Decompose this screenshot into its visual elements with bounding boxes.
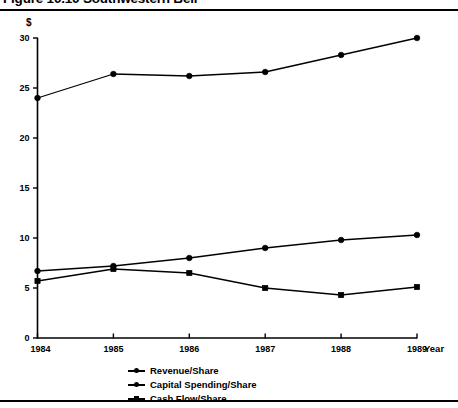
legend-item-cash-flow-share: Cash Flow/Share bbox=[128, 392, 388, 405]
y-axis-tick-label: 25 bbox=[19, 83, 29, 93]
legend-label-cash-flow-share: Cash Flow/Share bbox=[150, 393, 227, 404]
data-point-marker bbox=[414, 284, 419, 289]
data-point-marker bbox=[262, 245, 268, 251]
x-axis-tick-label: 1987 bbox=[255, 344, 275, 354]
legend-label-capital-spending-share: Capital Spending/Share bbox=[150, 379, 257, 390]
data-point-marker bbox=[339, 292, 344, 297]
y-axis-tick-label: 30 bbox=[19, 33, 29, 43]
legend-marker-circle-icon bbox=[128, 366, 145, 375]
legend-item-revenue-share: Revenue/Share bbox=[128, 364, 388, 377]
data-point-marker bbox=[338, 237, 344, 243]
legend-label-revenue-share: Revenue/Share bbox=[150, 365, 219, 376]
bottom-divider-rule bbox=[0, 400, 458, 402]
series-line bbox=[38, 38, 418, 98]
data-point-marker bbox=[338, 52, 344, 58]
data-point-marker bbox=[414, 232, 420, 238]
chart-series-layer bbox=[35, 35, 420, 297]
data-point-marker bbox=[111, 266, 116, 271]
y-axis-tick-label: 10 bbox=[19, 233, 29, 243]
chart-series-revenue-share bbox=[35, 35, 420, 101]
y-axis-tick-labels: 051015202530 bbox=[19, 33, 29, 343]
data-point-marker bbox=[35, 278, 40, 283]
y-axis-tick-label: 20 bbox=[19, 133, 29, 143]
legend-item-capital-spending-share: Capital Spending/Share bbox=[128, 378, 388, 391]
data-point-marker bbox=[414, 35, 420, 41]
y-axis-tick-label: 15 bbox=[19, 183, 29, 193]
figure-container: Figure 10.10 Southwestern Bell 051015202… bbox=[0, 0, 458, 408]
x-axis-tick-label: 1986 bbox=[179, 344, 199, 354]
x-axis-tick-labels: 198419851986198719881989 bbox=[31, 344, 428, 354]
y-axis-unit-label: $ bbox=[26, 17, 32, 28]
x-axis-tick-label: 1988 bbox=[331, 344, 351, 354]
data-point-marker bbox=[35, 95, 41, 101]
legend-marker-circle-icon bbox=[128, 380, 145, 389]
series-line bbox=[38, 269, 418, 295]
series-line bbox=[38, 235, 418, 271]
y-axis-tick-label: 5 bbox=[24, 283, 29, 293]
data-point-marker bbox=[262, 69, 268, 75]
x-axis-tick-label: 1984 bbox=[31, 344, 51, 354]
y-axis-tick-label: 0 bbox=[24, 333, 29, 343]
data-point-marker bbox=[187, 73, 193, 79]
x-axis-title: Year bbox=[424, 343, 444, 354]
line-chart-plot: 051015202530 198419851986198719881989 $ … bbox=[0, 0, 458, 360]
x-axis-tick-label: 1985 bbox=[103, 344, 123, 354]
chart-series-capital-spending-share bbox=[35, 232, 420, 274]
data-point-marker bbox=[187, 270, 192, 275]
chart-series-cash-flow-share bbox=[35, 266, 420, 297]
data-point-marker bbox=[187, 255, 193, 261]
data-point-marker bbox=[263, 285, 268, 290]
data-point-marker bbox=[111, 71, 117, 77]
data-point-marker bbox=[35, 268, 41, 274]
